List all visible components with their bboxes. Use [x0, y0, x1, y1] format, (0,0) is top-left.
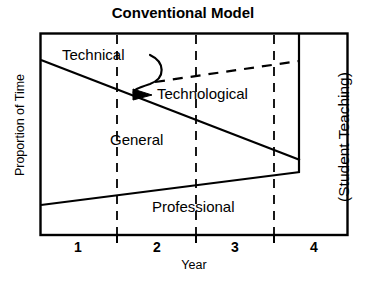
region-label-general: General	[110, 131, 163, 148]
line-technological-dashed	[155, 61, 299, 82]
plot-canvas	[0, 0, 366, 286]
region-label-technical: Technical	[62, 46, 125, 63]
region-label-technological: Technological	[157, 85, 248, 102]
line-technical-general-boundary	[41, 60, 300, 160]
conventional-model-figure: Conventional Model Proportion of Time (S…	[0, 0, 366, 286]
region-label-professional: Professional	[152, 198, 235, 215]
